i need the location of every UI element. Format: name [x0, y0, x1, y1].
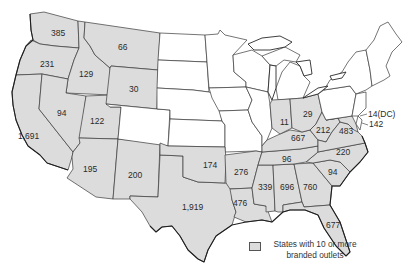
us-map: 385 231 1,691 129 94 122 66 30 195 200 1…	[0, 0, 415, 267]
label-tennessee: 96	[282, 154, 292, 164]
label-nevada: 94	[57, 108, 67, 118]
label-kentucky: 667	[291, 133, 305, 143]
label-new-mexico: 200	[128, 170, 142, 180]
label-north-carolina: 220	[336, 147, 350, 157]
label-indiana: 11	[280, 117, 289, 127]
label-florida: 677	[326, 220, 340, 230]
label-maryland: 142	[369, 119, 383, 129]
leader-dc	[360, 114, 367, 116]
label-california: 1,691	[18, 131, 40, 141]
state-north-dakota	[158, 33, 207, 62]
label-arizona: 195	[83, 164, 97, 174]
label-idaho: 129	[79, 69, 93, 79]
state-kansas	[168, 119, 225, 147]
label-mississippi: 339	[258, 182, 272, 192]
label-wyoming: 30	[129, 84, 139, 94]
label-montana: 66	[118, 42, 128, 52]
label-texas: 1,919	[182, 202, 204, 212]
label-virginia: 483	[339, 126, 353, 136]
label-west-virginia: 212	[316, 125, 330, 135]
label-arkansas: 276	[234, 167, 248, 177]
label-washington: 385	[51, 28, 65, 38]
legend: States with 10 or more branded outlets	[247, 239, 367, 263]
state-south-dakota	[157, 60, 209, 92]
label-dc: 14(DC)	[368, 109, 396, 119]
label-ohio: 29	[303, 109, 313, 119]
lake-michigan	[268, 65, 276, 100]
label-oregon: 231	[40, 59, 54, 69]
leader-md	[362, 123, 368, 125]
legend-label-line2: branded outlets	[266, 250, 364, 261]
state-new-mexico	[113, 139, 160, 199]
legend-swatch	[249, 242, 261, 251]
label-louisiana: 476	[233, 198, 247, 208]
state-pennsylvania	[318, 86, 356, 120]
label-utah: 122	[90, 116, 104, 126]
label-georgia: 760	[303, 182, 317, 192]
legend-label: States with 10 or more branded outlets	[266, 239, 364, 261]
state-new-england	[366, 22, 402, 86]
label-oklahoma: 174	[203, 160, 217, 170]
label-alabama: 696	[280, 182, 294, 192]
label-south-carolina: 94	[328, 167, 338, 177]
legend-label-line1: States with 10 or more	[266, 239, 364, 250]
